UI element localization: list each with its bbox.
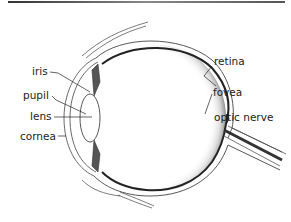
label-optic-nerve: optic nerve — [214, 111, 273, 123]
label-fovea: fovea — [213, 86, 242, 98]
lens-shape — [80, 94, 100, 142]
label-cornea: cornea — [20, 130, 56, 142]
top-rule — [8, 1, 285, 3]
label-pupil: pupil — [23, 89, 49, 101]
label-retina: retina — [214, 55, 245, 67]
eye-diagram: iris pupil lens cornea retina fovea opti… — [0, 0, 291, 222]
optic-nerve-bundle — [224, 126, 286, 166]
label-iris: iris — [32, 65, 48, 77]
label-lens: lens — [30, 110, 52, 122]
